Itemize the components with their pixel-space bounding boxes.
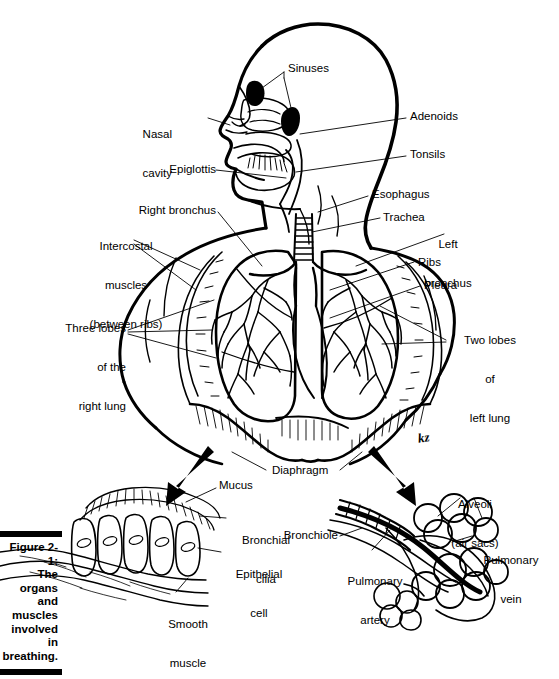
label-pulmonary-artery-line-2: artery <box>336 614 414 627</box>
caption-line-1: The organs <box>0 568 58 595</box>
cilia-band <box>80 487 220 530</box>
oral-cavity <box>234 144 295 190</box>
label-pulmonary-vein-line-2: vein <box>472 593 550 606</box>
caption-line-2: and <box>0 595 58 609</box>
sinus-cavities <box>246 81 300 136</box>
label-nasal-cavity: Nasal cavity <box>120 102 172 206</box>
label-diaphragm: Diaphragm <box>272 464 328 477</box>
label-smooth-muscle-line-2: muscle <box>154 657 222 670</box>
label-intercostal-line-2: muscles <box>60 279 192 292</box>
figure-number: Figure 2-1: <box>0 541 58 568</box>
label-pulmonary-artery: Pulmonary artery <box>336 549 414 653</box>
label-pulmonary-vein-line-1: Pulmonary <box>472 554 550 567</box>
label-smooth-muscle-line-1: Smooth <box>154 618 222 631</box>
label-pleura: Pleura <box>424 279 457 292</box>
label-two-lobes-line-3: left lung <box>450 412 530 425</box>
label-three-lobes-line-1: Three lobes <box>44 322 126 335</box>
head-outline <box>220 24 397 248</box>
label-epithelial-cell-line-2: cell <box>224 607 294 620</box>
label-three-lobes-line-3: right lung <box>44 400 126 413</box>
label-smooth-muscle: Smooth muscle <box>154 592 222 679</box>
label-intercostal-line-1: Intercostal <box>60 240 192 253</box>
label-nasal-cavity-line-1: Nasal <box>120 128 172 141</box>
label-pulmonary-artery-line-1: Pulmonary <box>336 575 414 588</box>
label-three-lobes-right-lung: Three lobes of the right lung <box>44 296 126 439</box>
label-alveoli-line-1: Alveoli <box>440 498 510 511</box>
trachea <box>294 214 313 262</box>
epithelial-cells <box>72 514 200 576</box>
neck <box>300 186 338 244</box>
label-esophagus: Esophagus <box>372 188 430 201</box>
label-ribs: Ribs <box>418 256 441 269</box>
artist-signature: kz <box>417 429 431 446</box>
label-tonsils: Tonsils <box>410 148 445 161</box>
label-adenoids: Adenoids <box>410 110 458 123</box>
label-sinuses: Sinuses <box>288 62 329 75</box>
caption-rule-bottom <box>0 669 62 675</box>
label-epithelial-cell-line-1: Epithelial <box>224 568 294 581</box>
caption-line-5: breathing. <box>0 650 58 664</box>
caption-line-4: involved in <box>0 623 58 650</box>
label-epithelial-cell: Epithelial cell <box>224 542 294 646</box>
label-three-lobes-line-2: of the <box>44 361 126 374</box>
right-lung-fissures <box>222 268 294 372</box>
caption-line-3: muscles <box>0 609 58 623</box>
figure-caption-text: Figure 2-1: The organs and muscles invol… <box>0 537 62 667</box>
label-two-lobes-line-1: Two lobes <box>450 334 530 347</box>
diaphragm <box>190 404 430 462</box>
arrow-to-right-inset <box>368 446 416 506</box>
arrow-to-left-inset <box>166 446 214 506</box>
label-pulmonary-vein: Pulmonary vein <box>472 528 550 632</box>
label-mucus: Mucus <box>219 479 253 492</box>
label-epiglottis: Epiglottis <box>108 163 216 176</box>
label-bronchiole: Bronchiole <box>280 529 338 542</box>
label-two-lobes-line-2: of <box>450 373 530 386</box>
label-left-bronchus-line-1: Left <box>408 238 488 251</box>
diaphragm-striations <box>196 406 424 452</box>
figure-caption-block: Figure 2-1: The organs and muscles invol… <box>0 531 62 675</box>
label-two-lobes-left-lung: Two lobes of left lung <box>450 308 530 451</box>
